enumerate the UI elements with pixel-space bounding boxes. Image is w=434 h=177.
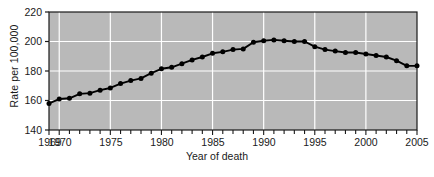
data-point-marker xyxy=(220,49,225,54)
data-point-marker xyxy=(98,88,103,93)
data-point-marker xyxy=(159,66,164,71)
data-point-marker xyxy=(374,53,379,58)
x-tick-label-1970: 1970 xyxy=(40,136,80,148)
data-point-marker xyxy=(363,52,368,57)
data-point-marker xyxy=(302,39,307,44)
data-point-marker xyxy=(384,54,389,59)
x-axis-title: Year of death xyxy=(0,150,434,162)
chart-figure: Rate per 100,000 220 200 180 160 140 196… xyxy=(0,0,434,177)
data-point-marker xyxy=(231,47,236,52)
x-tick-label-1975: 1975 xyxy=(91,136,131,148)
data-point-marker xyxy=(333,49,338,54)
data-point-marker xyxy=(251,40,256,45)
data-point-marker xyxy=(179,61,184,66)
data-point-marker xyxy=(394,58,399,63)
data-point-marker xyxy=(415,63,420,68)
data-point-marker xyxy=(261,38,266,43)
x-tick-label-1990: 1990 xyxy=(244,136,284,148)
data-point-marker xyxy=(271,38,276,43)
x-tick-label-2005: 2005 xyxy=(397,136,434,148)
data-point-marker xyxy=(190,57,195,62)
x-tick-label-2000: 2000 xyxy=(346,136,386,148)
data-point-marker xyxy=(108,85,113,90)
data-point-marker xyxy=(323,47,328,52)
data-point-marker xyxy=(343,50,348,55)
data-point-marker xyxy=(77,91,82,96)
data-point-marker xyxy=(139,76,144,81)
x-tick-label-1995: 1995 xyxy=(295,136,335,148)
data-point-marker xyxy=(241,46,246,51)
data-point-marker xyxy=(118,81,123,86)
data-point-marker xyxy=(282,38,287,43)
data-point-marker xyxy=(57,97,62,102)
data-point-marker xyxy=(210,51,215,56)
data-point-marker xyxy=(312,44,317,49)
data-point-marker xyxy=(87,91,92,96)
data-point-marker xyxy=(47,101,52,106)
data-point-marker xyxy=(67,96,72,101)
x-tick-label-1980: 1980 xyxy=(142,136,182,148)
x-tick-label-1985: 1985 xyxy=(193,136,233,148)
data-point-marker xyxy=(353,50,358,55)
data-point-marker xyxy=(404,63,409,68)
data-point-marker xyxy=(200,54,205,59)
data-point-marker xyxy=(292,39,297,44)
data-point-marker xyxy=(128,78,133,83)
data-point-marker xyxy=(169,65,174,70)
data-point-marker xyxy=(149,71,154,76)
